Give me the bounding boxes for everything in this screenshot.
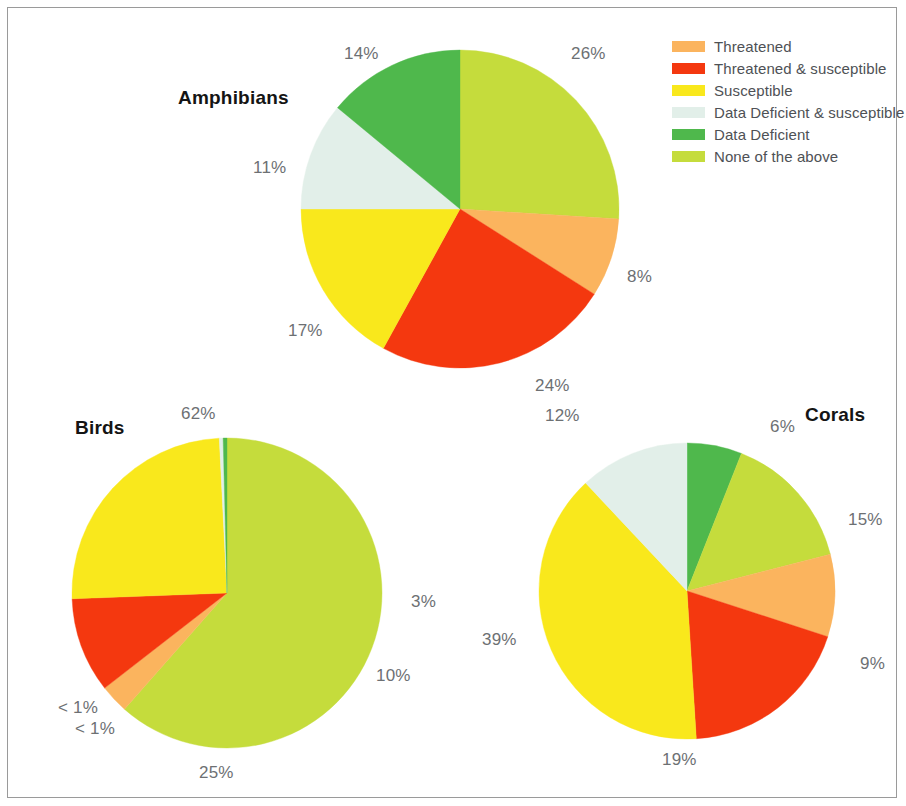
pie-percent-label: 11% [253,158,286,178]
pie-svg-corals [535,439,839,743]
pie-percent-label: 15% [848,510,883,530]
figure-canvas: Amphibians 26%8%24%17%11%14% Birds 62%3%… [0,0,906,806]
pie-percent-label: < 1% [75,719,115,739]
pie-percent-label: 39% [482,630,517,650]
pie-svg-amphibians [297,46,623,372]
legend-swatch-icon [672,151,705,162]
legend-label: Threatened & susceptible [714,60,887,77]
legend-swatch-icon [672,129,705,140]
pie-chart-birds [68,434,386,752]
pie-slice [72,438,227,599]
pie-percent-label: < 1% [58,698,98,718]
legend-label: Data Deficient & susceptible [714,104,904,121]
pie-percent-label: 6% [770,417,795,437]
pie-percent-label: 12% [545,406,580,426]
pie-percent-label: 25% [199,763,234,783]
legend-label: Susceptible [714,82,793,99]
pie-percent-label: 19% [662,750,697,770]
legend-swatch-icon [672,41,705,52]
legend-swatch-icon [672,63,705,74]
pie-percent-label: 26% [571,44,606,64]
pie-percent-label: 8% [627,267,652,287]
legend-item: Threatened & susceptible [672,58,894,79]
legend-label: None of the above [714,148,838,165]
legend: ThreatenedThreatened & susceptibleSuscep… [672,36,894,168]
pie-chart-corals [535,439,839,743]
pie-percent-label: 62% [181,404,216,424]
pie-percent-label: 9% [860,654,885,674]
legend-item: Data Deficient & susceptible [672,102,894,123]
legend-swatch-icon [672,107,705,118]
legend-item: Data Deficient [672,124,894,145]
pie-percent-label: 17% [288,321,323,341]
legend-label: Threatened [714,38,792,55]
chart-title-corals: Corals [805,404,865,426]
chart-title-amphibians: Amphibians [178,87,289,109]
pie-percent-label: 10% [376,666,411,686]
pie-percent-label: 24% [535,376,570,396]
legend-swatch-icon [672,85,705,96]
legend-item: Susceptible [672,80,894,101]
pie-chart-amphibians [297,46,623,372]
pie-percent-label: 3% [411,592,436,612]
legend-label: Data Deficient [714,126,810,143]
pie-svg-birds [68,434,386,752]
pie-slice [460,50,619,219]
pie-percent-label: 14% [344,44,379,64]
legend-item: None of the above [672,146,894,167]
legend-item: Threatened [672,36,894,57]
